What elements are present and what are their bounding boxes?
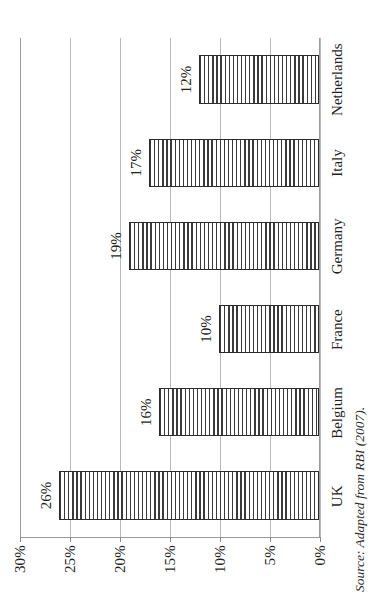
bar-value-label-netherlands: 12%	[178, 66, 195, 94]
y-tick-mark	[70, 537, 71, 542]
bar-slot-uk: 26%	[20, 454, 319, 537]
y-axis-tick-label: 25%	[62, 545, 79, 573]
y-tick-mark	[120, 537, 121, 542]
chart-figure: 0%5%10%15%20%25%30% 26%16%10%19%17%12% U…	[0, 0, 384, 594]
bar-uk[interactable]: 26%	[59, 471, 319, 519]
bar-belgium[interactable]: 16%	[159, 388, 319, 436]
bar-italy[interactable]: 17%	[149, 139, 319, 187]
y-axis-tick-label: 20%	[112, 545, 129, 573]
y-axis-tick-label: 15%	[162, 545, 179, 573]
y-tick-mark	[220, 537, 221, 542]
rotated-figure-container: 0%5%10%15%20%25%30% 26%16%10%19%17%12% U…	[0, 0, 384, 594]
bar-france[interactable]: 10%	[219, 305, 319, 353]
y-tick-mark	[170, 537, 171, 542]
category-label-france: France	[320, 288, 346, 371]
category-label-belgium: Belgium	[320, 371, 346, 454]
bar-netherlands[interactable]: 12%	[199, 55, 319, 103]
bar-slot-italy: 17%	[20, 121, 319, 204]
bar-value-label-uk: 26%	[38, 482, 55, 510]
bar-germany[interactable]: 19%	[129, 222, 319, 270]
category-label-italy: Italy	[320, 121, 346, 204]
y-axis-tick-label: 30%	[12, 545, 29, 573]
bar-slot-france: 10%	[20, 287, 319, 370]
category-axis: UKBelgiumFranceGermanyItalyNetherlands	[320, 38, 346, 538]
y-tick-mark	[270, 537, 271, 542]
bar-slot-belgium: 16%	[20, 371, 319, 454]
category-label-uk: UK	[320, 455, 346, 538]
y-tick-mark	[20, 537, 21, 542]
bars-layer: 26%16%10%19%17%12%	[20, 38, 319, 537]
y-axis-tick-label: 10%	[212, 545, 229, 573]
y-axis-tick-label: 5%	[262, 545, 279, 565]
source-note: Source: Adapted from RBI (2007).	[352, 407, 368, 592]
bar-slot-netherlands: 12%	[20, 38, 319, 121]
bar-value-label-germany: 19%	[108, 232, 125, 260]
plot-area: 0%5%10%15%20%25%30% 26%16%10%19%17%12%	[20, 38, 320, 538]
bar-value-label-italy: 17%	[128, 149, 145, 177]
y-axis-tick-label: 0%	[312, 545, 329, 565]
bar-slot-germany: 19%	[20, 204, 319, 287]
category-label-netherlands: Netherlands	[320, 38, 346, 121]
bar-value-label-france: 10%	[198, 315, 215, 343]
category-label-germany: Germany	[320, 205, 346, 288]
bar-value-label-belgium: 16%	[138, 399, 155, 427]
